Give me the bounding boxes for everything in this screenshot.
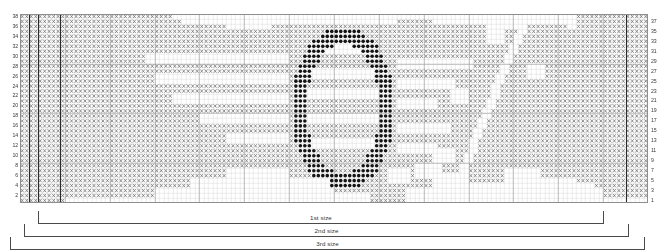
row-number-left-20: 20 — [2, 103, 18, 108]
row-number-left-12: 12 — [2, 143, 18, 148]
bracket-tick-right — [644, 237, 645, 250]
row-number-left-18: 18 — [2, 113, 18, 118]
bracket-label: 1st size — [307, 214, 335, 221]
row-number-right-27: 27 — [651, 69, 667, 74]
row-number-left-2: 2 — [2, 193, 18, 198]
row-number-left-24: 24 — [2, 84, 18, 89]
row-number-right-31: 31 — [651, 49, 667, 54]
row-number-left-38: 38 — [2, 14, 18, 19]
bracket-arm-right — [328, 249, 646, 250]
row-number-right-25: 25 — [651, 79, 667, 84]
bracket-arm-left — [10, 249, 328, 250]
row-numbers-right: 373533312927252321191715131197531 — [649, 14, 667, 203]
row-number-left-36: 36 — [2, 24, 18, 29]
row-number-right-3: 3 — [651, 188, 667, 193]
size-bracket-3: 3rd size — [10, 237, 645, 252]
row-number-left-16: 16 — [2, 123, 18, 128]
row-number-left-28: 28 — [2, 64, 18, 69]
row-number-right-5: 5 — [651, 178, 667, 183]
row-number-right-15: 15 — [651, 128, 667, 133]
row-number-right-19: 19 — [651, 108, 667, 113]
row-number-left-34: 34 — [2, 34, 18, 39]
bracket-tick-right — [628, 224, 629, 237]
row-number-right-17: 17 — [651, 118, 667, 123]
row-number-left-22: 22 — [2, 93, 18, 98]
row-number-right-29: 29 — [651, 59, 667, 64]
row-number-left-14: 14 — [2, 133, 18, 138]
bracket-label: 2nd size — [312, 227, 342, 234]
row-number-right-21: 21 — [651, 98, 667, 103]
row-number-right-7: 7 — [651, 168, 667, 173]
stitch-grid-canvas[interactable] — [20, 14, 648, 203]
bracket-label: 3rd size — [313, 240, 341, 247]
row-number-left-4: 4 — [2, 183, 18, 188]
bracket-tick-right — [603, 211, 604, 224]
row-numbers-left: 3836343230282624222018161412108642 — [1, 14, 19, 203]
size-brackets: 1st size2nd size3rd size — [0, 203, 668, 249]
bracket-tick-left — [10, 237, 11, 250]
row-number-right-11: 11 — [651, 148, 667, 153]
row-number-right-23: 23 — [651, 89, 667, 94]
row-number-right-13: 13 — [651, 138, 667, 143]
row-number-right-35: 35 — [651, 29, 667, 34]
stitch-chart[interactable] — [20, 14, 648, 203]
bracket-tick-left — [24, 224, 25, 237]
row-number-right-33: 33 — [651, 39, 667, 44]
row-number-left-10: 10 — [2, 153, 18, 158]
row-number-right-37: 37 — [651, 19, 667, 24]
row-number-left-26: 26 — [2, 74, 18, 79]
row-number-right-9: 9 — [651, 158, 667, 163]
row-number-left-32: 32 — [2, 44, 18, 49]
bracket-tick-left — [38, 211, 39, 224]
row-number-left-6: 6 — [2, 173, 18, 178]
row-number-left-30: 30 — [2, 54, 18, 59]
row-number-left-8: 8 — [2, 163, 18, 168]
